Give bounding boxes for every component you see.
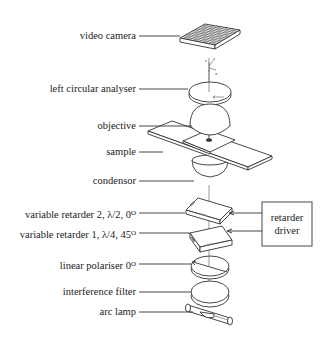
driver-arrows	[227, 211, 262, 233]
diagram-graphics: z y x	[0, 0, 328, 338]
leader-lines	[139, 36, 194, 312]
axis-y-label: y	[212, 56, 216, 61]
label-variable-retarder-2: variable retarder 2, λ/2, 0O	[25, 207, 136, 221]
label-linear-polariser: linear polariser 0O	[60, 258, 136, 272]
objective-sample-condensor-graphic	[148, 104, 272, 177]
degree-superscript: O	[131, 260, 136, 268]
optical-setup-diagram: z y x	[0, 0, 328, 338]
label-objective: objective	[98, 120, 136, 132]
variable-retarder-1-graphic	[190, 226, 232, 252]
label-condensor: condensor	[93, 175, 136, 187]
degree-superscript: O	[131, 209, 136, 217]
label-left-circular-analyser: left circular analyser	[50, 83, 136, 95]
axis-z-label: z	[204, 58, 207, 63]
label-arc-lamp: arc lamp	[100, 306, 136, 318]
label-video-camera: video camera	[80, 30, 136, 42]
retarder-driver-line1: retarder	[262, 211, 312, 224]
retarder-driver-label: retarder driver	[262, 211, 312, 237]
axis-x-label: x	[214, 71, 218, 76]
label-variable-retarder-1: variable retarder 1, λ/4, 45O	[20, 227, 136, 241]
axes-indicator: z y x	[204, 56, 218, 76]
label-variable-retarder-2-text: variable retarder 2, λ/2, 0	[25, 209, 131, 220]
left-circular-analyser-graphic	[189, 70, 231, 105]
interference-filter-graphic	[191, 281, 229, 307]
label-interference-filter: interference filter	[63, 286, 136, 298]
label-sample: sample	[106, 146, 136, 158]
linear-polariser-graphic	[191, 256, 229, 279]
label-variable-retarder-1-text: variable retarder 1, λ/4, 45	[20, 229, 131, 240]
retarder-driver-line2: driver	[262, 224, 312, 237]
degree-superscript: O	[131, 229, 136, 237]
video-camera-graphic	[180, 24, 240, 49]
variable-retarder-2-graphic	[186, 198, 232, 224]
label-linear-polariser-text: linear polariser 0	[60, 260, 131, 271]
